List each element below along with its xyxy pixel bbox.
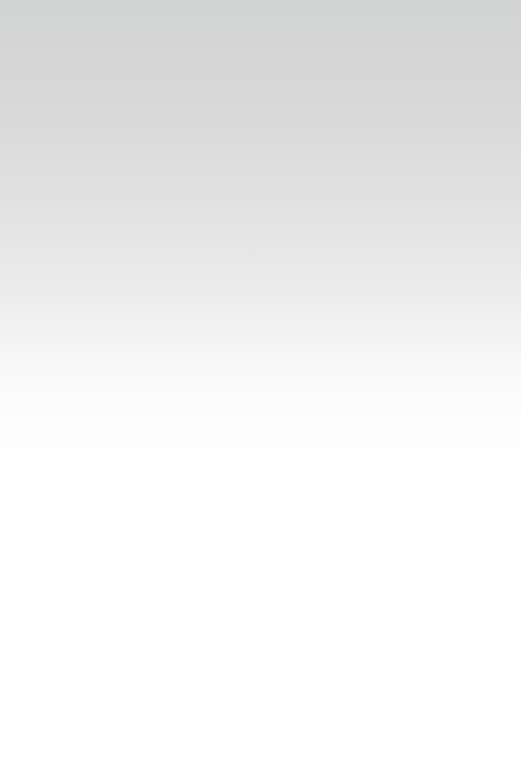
content-layer <box>0 0 521 776</box>
screenshot-canvas <box>0 0 521 776</box>
